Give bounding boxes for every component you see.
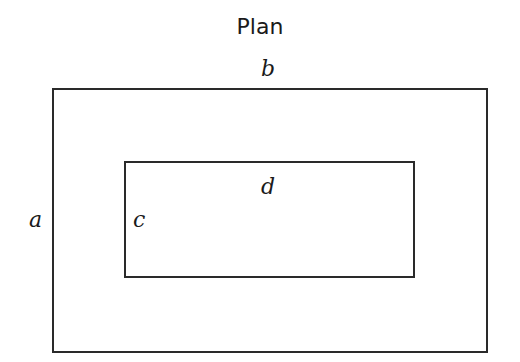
label-b: b <box>261 58 275 80</box>
label-c: c <box>133 209 145 231</box>
label-d: d <box>261 176 275 198</box>
diagram-title: Plan <box>0 14 520 39</box>
label-a: a <box>29 209 42 231</box>
